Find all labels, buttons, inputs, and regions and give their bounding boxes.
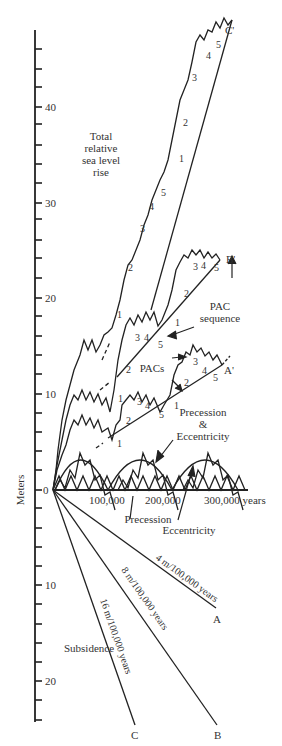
svg-text:5: 5 — [158, 339, 163, 350]
svg-text:3: 3 — [193, 261, 198, 272]
svg-text:2: 2 — [128, 262, 133, 273]
svg-text:2: 2 — [184, 288, 189, 299]
precession-curve — [53, 476, 245, 490]
annotation-arrows — [130, 256, 236, 520]
svg-text:Total: Total — [90, 130, 112, 142]
subsidence-label: Subsidence — [64, 642, 114, 654]
svg-text:2: 2 — [183, 117, 188, 128]
svg-text:4: 4 — [145, 400, 150, 411]
svg-text:4: 4 — [206, 50, 211, 61]
svg-text:2: 2 — [184, 377, 189, 388]
svg-text:5: 5 — [214, 262, 219, 273]
svg-text:5: 5 — [159, 409, 164, 420]
y-tick-minus-10: 10 — [45, 579, 57, 591]
y-tick-0: 0 — [43, 484, 49, 496]
y-tick-30: 30 — [45, 197, 57, 209]
svg-text:sea level: sea level — [82, 154, 120, 166]
end-label-c-prime: C' — [225, 24, 234, 36]
svg-text:3: 3 — [135, 332, 140, 343]
x-tick-200000: 200,000 — [145, 494, 181, 506]
svg-text:1: 1 — [117, 309, 122, 320]
y-tick-minus-20: 20 — [45, 675, 57, 687]
svg-text:4: 4 — [202, 365, 207, 376]
svg-text:1: 1 — [175, 317, 180, 328]
subsidence-line-c — [53, 490, 135, 725]
svg-text:2: 2 — [126, 415, 131, 426]
svg-text:1: 1 — [179, 153, 184, 164]
y-tick-40: 40 — [45, 101, 57, 113]
svg-text:3: 3 — [137, 396, 142, 407]
x-tick-100000: 100,000 — [89, 494, 125, 506]
svg-text:4: 4 — [201, 260, 206, 271]
svg-text:1: 1 — [174, 400, 179, 411]
sea-level-curve-b — [53, 250, 220, 490]
end-label-b: B — [214, 729, 221, 741]
sea-level-diagram: 40 30 20 10 0 10 20 Meters 100,000 200,0… — [0, 0, 282, 746]
svg-text:3: 3 — [193, 356, 198, 367]
y-axis-label: Meters — [14, 475, 26, 506]
svg-text:4: 4 — [144, 332, 149, 343]
svg-text:4: 4 — [149, 201, 154, 212]
rate-label-a: 4 m/100,000 years — [154, 552, 221, 604]
svg-text:PAC: PAC — [210, 300, 230, 312]
pac-numbers-c: 1 2 3 4 5 1 2 3 4 5 — [117, 39, 221, 320]
x-tick-300000: 300,000 years — [204, 494, 266, 506]
svg-text:rise: rise — [93, 166, 109, 178]
pacs-label: PACs — [140, 362, 165, 374]
svg-text:5: 5 — [216, 39, 221, 50]
eccentricity-label: Eccentricity — [162, 524, 216, 536]
svg-text:5: 5 — [213, 372, 218, 383]
svg-text:1: 1 — [117, 438, 122, 449]
pac-numbers-b: 1 2 3 4 5 1 2 3 4 5 — [118, 260, 219, 404]
precession-eccentricity-label: Precession & Eccentricity — [176, 406, 230, 442]
svg-text:&: & — [199, 418, 208, 430]
end-label-a-prime: A' — [224, 364, 234, 376]
svg-text:Eccentricity: Eccentricity — [176, 430, 230, 442]
svg-text:2: 2 — [126, 364, 131, 375]
svg-text:3: 3 — [140, 223, 145, 234]
y-axis-ticks — [35, 49, 42, 720]
svg-text:3: 3 — [192, 72, 197, 83]
end-label-a: A — [213, 613, 221, 625]
svg-text:Precession: Precession — [179, 406, 227, 418]
svg-text:sequence: sequence — [200, 312, 240, 324]
y-tick-10: 10 — [45, 388, 57, 400]
total-rise-label: Total relative sea level rise — [82, 130, 120, 178]
svg-text:5: 5 — [161, 187, 166, 198]
end-label-b-prime: B' — [226, 253, 235, 265]
y-tick-20: 20 — [45, 292, 57, 304]
svg-text:1: 1 — [118, 393, 123, 404]
svg-text:relative: relative — [85, 142, 118, 154]
pac-sequence-label: PAC sequence — [200, 300, 240, 324]
end-label-c: C — [131, 729, 138, 741]
